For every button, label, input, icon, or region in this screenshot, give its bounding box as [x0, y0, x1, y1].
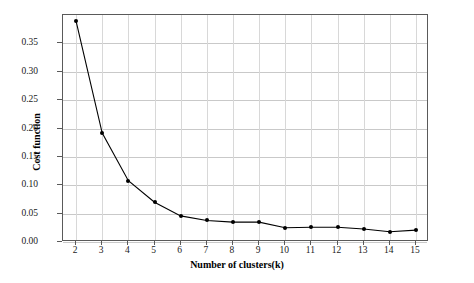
- y-axis-label: Cost function: [31, 113, 42, 171]
- y-tick-mark: [57, 42, 62, 43]
- x-tick-label: 10: [279, 245, 289, 255]
- y-tick-mark: [57, 213, 62, 214]
- x-tick-label: 4: [125, 245, 130, 255]
- y-tick-mark: [57, 128, 62, 129]
- x-tick-mark: [154, 241, 155, 245]
- x-tick-label: 14: [384, 245, 394, 255]
- data-point: [362, 227, 366, 231]
- x-tick-mark: [101, 241, 102, 245]
- y-tick-label: 0.00: [21, 236, 38, 246]
- x-tick-mark: [232, 241, 233, 245]
- y-tick-mark: [57, 156, 62, 157]
- data-point: [414, 228, 418, 232]
- data-point: [283, 226, 287, 230]
- y-tick-label: 0.25: [21, 94, 38, 104]
- x-tick-mark: [337, 241, 338, 245]
- y-tick-label: 0.30: [21, 66, 38, 76]
- series-line: [63, 15, 427, 240]
- plot-area: [62, 14, 428, 241]
- x-tick-mark: [127, 241, 128, 245]
- x-tick-label: 12: [332, 245, 342, 255]
- x-tick-mark: [310, 241, 311, 245]
- x-tick-label: 15: [410, 245, 420, 255]
- x-tick-mark: [206, 241, 207, 245]
- x-tick-mark: [75, 241, 76, 245]
- y-tick-mark: [57, 99, 62, 100]
- x-tick-label: 6: [177, 245, 182, 255]
- y-tick-mark: [57, 184, 62, 185]
- x-tick-mark: [258, 241, 259, 245]
- y-tick-label: 0.10: [21, 179, 38, 189]
- x-tick-label: 9: [256, 245, 261, 255]
- x-tick-mark: [363, 241, 364, 245]
- y-tick-mark: [57, 241, 62, 242]
- y-tick-label: 0.05: [21, 208, 38, 218]
- x-tick-label: 8: [230, 245, 235, 255]
- x-tick-label: 13: [358, 245, 368, 255]
- x-tick-label: 5: [151, 245, 156, 255]
- y-tick-label: 0.20: [21, 123, 38, 133]
- x-axis-label: Number of clusters(k): [0, 259, 474, 270]
- data-point: [336, 225, 340, 229]
- x-tick-mark: [180, 241, 181, 245]
- data-point: [388, 230, 392, 234]
- y-tick-label: 0.35: [21, 37, 38, 47]
- x-tick-label: 11: [306, 245, 315, 255]
- x-tick-label: 7: [203, 245, 208, 255]
- y-tick-label: 0.15: [21, 151, 38, 161]
- x-tick-mark: [415, 241, 416, 245]
- x-tick-mark: [389, 241, 390, 245]
- gridline-horizontal: [63, 242, 427, 243]
- x-tick-mark: [284, 241, 285, 245]
- x-tick-label: 3: [99, 245, 104, 255]
- x-tick-label: 2: [73, 245, 78, 255]
- data-point: [179, 214, 183, 218]
- data-point: [153, 200, 157, 204]
- y-tick-mark: [57, 71, 62, 72]
- series-layer: [63, 15, 427, 240]
- chart-root: Cost function 0.000.050.100.150.200.250.…: [0, 0, 474, 283]
